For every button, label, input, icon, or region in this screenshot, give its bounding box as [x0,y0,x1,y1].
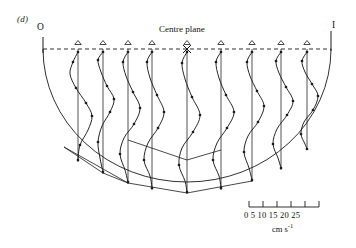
profile-data-point [251,179,254,182]
profile-data-point [151,187,154,190]
profile-data-point [311,83,314,86]
profile-data-point [109,111,112,114]
profile-data-point [275,60,278,63]
profile-data-point [186,191,189,194]
profile-data-point [127,51,130,54]
profile-data-point [280,167,283,170]
panel-label: (d) [17,14,28,24]
profile-data-point [106,85,109,88]
profile-data-point [102,171,105,174]
velocity-profile-figure [0,0,356,248]
profile-data-point [301,60,304,63]
profile-data-point [143,159,146,162]
profile-data-point [127,181,130,184]
profile-data-point [199,114,202,117]
profile-data-point [280,51,283,54]
scale-tick-labels: 0 5 10 15 20 25 [244,210,300,220]
right-edge-label: I [332,20,335,30]
profile-data-point [85,102,88,105]
profile-data-point [251,51,254,54]
profile-data-point [97,59,100,62]
profile-data-point [263,105,266,108]
profile-data-point [285,86,288,89]
profile-data-point [139,107,142,110]
profile-data-point [220,51,223,54]
profile-data-point [243,151,246,154]
profile-data-point [306,51,309,54]
profile-data-point [191,96,194,99]
profile-data-point [286,114,289,117]
profile-data-point [77,159,80,162]
profile-data-point [257,121,260,124]
profile-data-point [300,133,303,136]
profile-data-point [113,98,116,101]
profile-data-point [233,111,236,114]
profile-data-point [151,51,154,54]
profile-data-point [220,187,223,190]
profile-data-point [272,143,275,146]
profile-data-point [186,51,189,54]
scale-units-label: cm s-1 [272,222,293,234]
centre-plane-label: Centre plane [159,24,205,34]
profile-data-point [246,61,249,64]
profile-data-point [146,61,149,64]
profile-data-point [119,153,122,156]
profile-data-point [226,127,229,130]
profile-data-point [215,61,218,64]
profile-data-point [122,61,125,64]
origin-label: O [37,22,44,32]
profile-data-point [77,51,80,54]
profile-data-point [133,123,136,126]
profile-data-point [178,164,181,167]
profile-data-point [79,144,82,147]
profile-data-point [102,51,105,54]
profile-data-point [75,87,78,90]
profile-data-point [72,61,75,64]
profile-data-point [157,127,160,130]
scale-units-text: cm s [272,224,288,234]
profile-data-point [225,94,228,97]
profile-data-point [317,95,320,98]
profile-data-point [312,109,315,112]
profile-data-point [156,94,159,97]
scale-units-exponent: -1 [288,222,293,229]
profile-data-point [132,91,135,94]
profile-data-point [212,159,215,162]
profile-data-point [256,90,259,93]
profile-data-point [97,141,100,144]
profile-data-point [163,111,166,114]
profile-data-point [181,62,184,65]
profile-data-point [292,100,295,103]
profile-data-point [192,131,195,134]
profile-data-point [91,115,94,118]
profile-data-point [306,148,309,151]
